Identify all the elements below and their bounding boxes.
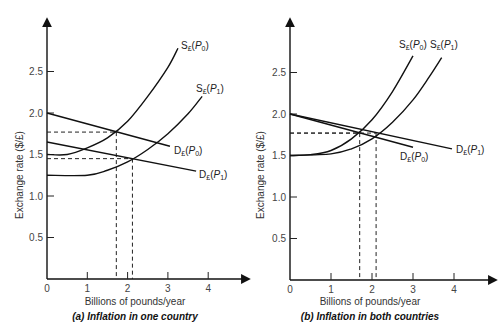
- x-tick-label: 4: [451, 284, 457, 295]
- y-tick-label: 1.5: [272, 150, 286, 161]
- demand-label-p1: D£(P1): [199, 169, 227, 181]
- y-tick-label: 0.5: [29, 232, 43, 243]
- chart-figure: Exchange rate ($/£) Billions of pounds/y…: [0, 0, 503, 336]
- panel-b: Exchange rate ($/£) Billions of pounds/y…: [255, 25, 490, 322]
- demand-curve-p1: [290, 114, 452, 149]
- demand-label-p1: D£(P1): [456, 144, 484, 156]
- demand-curve-p0: [47, 113, 170, 146]
- y-tick-label: 1.0: [272, 192, 286, 203]
- x-tick-label: 0: [44, 283, 50, 294]
- y-tick-label: 1.5: [29, 149, 43, 160]
- supply-label-p0: S£(P0): [399, 39, 427, 51]
- supply-label-p1: S£(P1): [430, 39, 458, 51]
- supply-curve-p1: [47, 96, 202, 175]
- x-tick-label: 0: [287, 284, 293, 295]
- supply-label-p1: S£(P1): [196, 83, 224, 95]
- x-tick-label: 3: [165, 283, 171, 294]
- x-tick-label: 1: [85, 283, 91, 294]
- x-tick-label: 1: [328, 284, 334, 295]
- panel-caption: (b) Inflation in both countries: [301, 311, 440, 322]
- supply-curve-p0: [47, 48, 178, 155]
- y-tick-label: 2.0: [29, 108, 43, 119]
- y-axis-title: Exchange rate ($/£): [14, 131, 25, 219]
- y-axis-title: Exchange rate ($/£): [255, 131, 266, 219]
- x-tick-label: 4: [205, 283, 211, 294]
- demand-curve-p0: [290, 114, 413, 147]
- supply-label-p0: S£(P0): [181, 40, 209, 52]
- y-tick-label: 2.5: [272, 67, 286, 78]
- x-axis-title: Billions of pounds/year: [320, 296, 421, 307]
- y-tick-label: 0.5: [272, 233, 286, 244]
- x-axis-title: Billions of pounds/year: [85, 296, 186, 307]
- demand-label-p0: D£(P0): [174, 145, 202, 157]
- y-tick-label: 2.0: [272, 109, 286, 120]
- y-tick-label: 1.0: [29, 191, 43, 202]
- y-tick-label: 2.5: [29, 66, 43, 77]
- supply-curve-p0: [290, 56, 413, 156]
- supply-curve-p1: [290, 58, 442, 156]
- x-tick-label: 3: [410, 284, 416, 295]
- panel-caption: (a) Inflation in one country: [72, 311, 198, 322]
- x-tick-label: 2: [125, 283, 131, 294]
- x-tick-label: 2: [369, 284, 375, 295]
- panel-a: Exchange rate ($/£) Billions of pounds/y…: [14, 25, 243, 322]
- demand-label-p0: D£(P0): [400, 151, 428, 163]
